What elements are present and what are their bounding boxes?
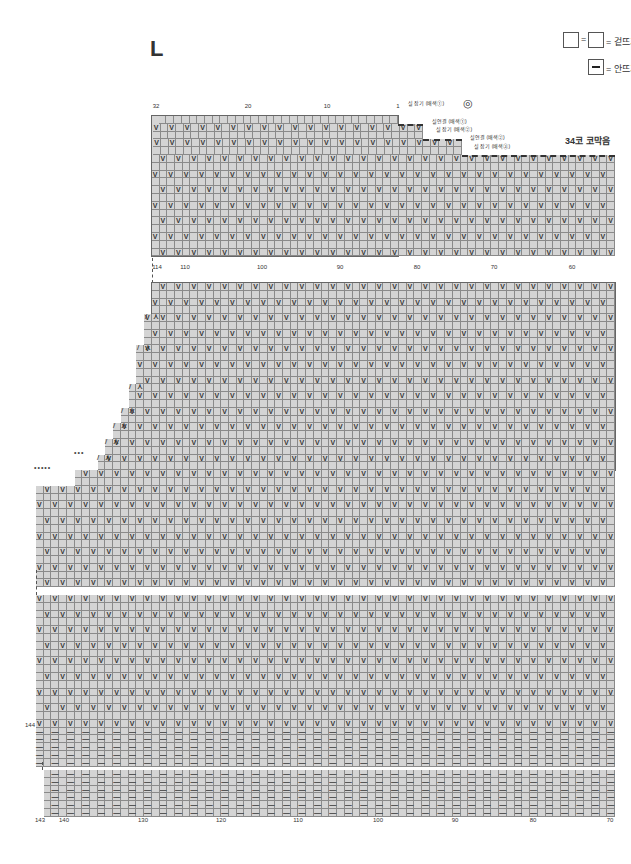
stitch-cell <box>90 494 98 502</box>
stitch-cell: V <box>136 673 144 681</box>
stitch-cell <box>222 132 230 140</box>
stitch-cell: V <box>129 533 137 541</box>
stitch-cell <box>160 291 168 299</box>
stitch-cell: — <box>314 735 322 743</box>
stitch-cell: V <box>337 233 345 241</box>
stitch-cell <box>484 369 492 377</box>
stitch-cell <box>75 801 83 809</box>
stitch-cell: V <box>391 720 399 728</box>
stitch-cell <box>592 540 600 548</box>
stitch-cell: V <box>383 299 391 307</box>
stitch-cell <box>461 345 469 353</box>
stitch-cell <box>44 634 52 642</box>
stitch-cell <box>491 225 499 233</box>
stitch-cell: V <box>530 345 538 353</box>
stitch-cell <box>453 642 461 650</box>
stitch-cell: V <box>414 548 422 556</box>
stitch-cell <box>260 743 268 751</box>
stitch-cell <box>476 439 484 447</box>
stitch-cell <box>353 735 361 743</box>
stitch-cell <box>368 353 376 361</box>
stitch-cell <box>491 618 499 626</box>
stitch-cell <box>167 384 175 392</box>
stitch-cell <box>376 494 384 502</box>
stitch-cell: V <box>221 470 229 478</box>
stitch-cell <box>515 225 523 233</box>
stitch-cell: — <box>98 743 106 751</box>
stitch-cell: — <box>129 770 137 778</box>
stitch-cell <box>453 455 461 463</box>
stitch-cell <box>322 751 330 759</box>
stitch-cell: V <box>338 139 346 147</box>
stitch-cell <box>476 353 484 361</box>
stitch-cell: V <box>268 564 276 572</box>
stitch-cell: — <box>175 778 183 786</box>
stitch-cell <box>322 338 330 346</box>
stitch-cell <box>461 501 469 509</box>
stitch-cell: V <box>437 439 445 447</box>
stitch-cell <box>229 689 237 697</box>
stitch-cell <box>291 447 299 455</box>
stitch-cell <box>376 178 384 186</box>
stitch-cell <box>430 225 438 233</box>
stitch-cell <box>90 618 98 626</box>
stitch-cell: V <box>538 548 546 556</box>
stitch-cell: V <box>167 423 175 431</box>
stitch-cell <box>383 416 391 424</box>
stitch-cell: V <box>214 171 222 179</box>
stitch-cell <box>152 712 160 720</box>
stitch-cell: V <box>345 533 353 541</box>
stitch-cell <box>407 447 415 455</box>
stitch-cell <box>383 720 391 728</box>
stitch-cell <box>499 525 507 533</box>
stitch-cell: V <box>260 361 268 369</box>
stitch-cell <box>167 178 175 186</box>
stitch-cell <box>337 478 345 486</box>
stitch-cell: V <box>414 704 422 712</box>
stitch-cell <box>391 517 399 525</box>
stitch-cell <box>268 400 276 408</box>
stitch-cell <box>445 595 453 603</box>
stitch-cell <box>237 431 245 439</box>
stitch-cell: V <box>546 408 554 416</box>
stitch-cell <box>399 525 407 533</box>
stitch-cell <box>214 681 222 689</box>
stitch-cell <box>59 618 67 626</box>
stitch-cell: V <box>183 233 191 241</box>
stitch-cell <box>213 116 221 124</box>
stitch-cell <box>337 163 345 171</box>
stitch-cell <box>461 801 469 809</box>
stitch-cell <box>383 447 391 455</box>
stitch-cell <box>538 439 546 447</box>
stitch-cell <box>244 793 252 801</box>
stitch-cell <box>600 778 608 786</box>
stitch-cell: V <box>260 171 268 179</box>
stitch-cell <box>430 400 438 408</box>
stitch-cell: V <box>569 233 577 241</box>
stitch-cell <box>507 194 515 202</box>
stitch-cell <box>584 249 592 257</box>
stitch-cell <box>175 369 183 377</box>
stitch-cell <box>337 314 345 322</box>
stitch-cell <box>414 801 422 809</box>
stitch-cell <box>229 665 237 673</box>
stitch-cell <box>592 241 600 249</box>
stitch-cell <box>546 447 554 455</box>
stitch-cell <box>468 392 476 400</box>
stitch-cell <box>507 210 515 218</box>
stitch-cell: V <box>144 657 152 665</box>
stitch-cell: V <box>36 720 44 728</box>
stitch-cell <box>214 431 222 439</box>
stitch-cell: V <box>491 611 499 619</box>
stitch-cell <box>198 595 206 603</box>
stitch-cell <box>198 377 206 385</box>
stitch-cell: V <box>237 439 245 447</box>
stitch-cell <box>59 501 67 509</box>
stitch-cell <box>291 283 299 291</box>
stitch-cell: V <box>292 124 300 132</box>
stitch-cell <box>507 650 515 658</box>
stitch-cell <box>175 163 183 171</box>
stitch-cell <box>183 186 191 194</box>
stitch-cell <box>206 423 214 431</box>
stitch-cell <box>51 603 59 611</box>
